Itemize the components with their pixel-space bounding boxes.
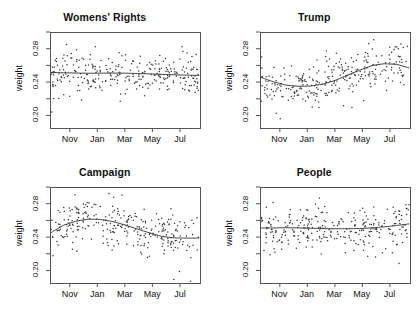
y-tick-label: 0.20: [31, 259, 40, 281]
y-tick-label: 0.20: [240, 104, 249, 126]
y-tick-label: 0.24: [31, 71, 40, 93]
panel-grid: Womens' Rights weight 0.200.240.28NovJan…: [0, 0, 419, 310]
y-tick-label: 0.28: [31, 192, 40, 214]
y-tick-label: 0.28: [240, 37, 249, 59]
y-tick-label: 0.24: [240, 226, 249, 248]
y-tick-label: 0.24: [240, 71, 249, 93]
y-tick-label: 0.20: [240, 259, 249, 281]
y-tick-label: 0.24: [31, 226, 40, 248]
panel-people: People weight 0.200.240.28NovJanMarMayJu…: [210, 155, 419, 310]
y-tick-label: 0.20: [31, 104, 40, 126]
x-tick-label: Jul: [164, 289, 196, 299]
panel-campaign: Campaign weight 0.200.240.28NovJanMarMay…: [0, 155, 210, 310]
panel-womens-rights: Womens' Rights weight 0.200.240.28NovJan…: [0, 0, 210, 155]
panel-trump: Trump weight 0.200.240.28NovJanMarMayJul: [210, 0, 419, 155]
y-tick-label: 0.28: [240, 192, 249, 214]
bottom-crop-strip: [0, 302, 419, 310]
x-tick-label: Jul: [373, 134, 405, 144]
x-tick-label: Jul: [373, 289, 405, 299]
x-tick-label: Jul: [164, 134, 196, 144]
y-tick-label: 0.28: [31, 37, 40, 59]
